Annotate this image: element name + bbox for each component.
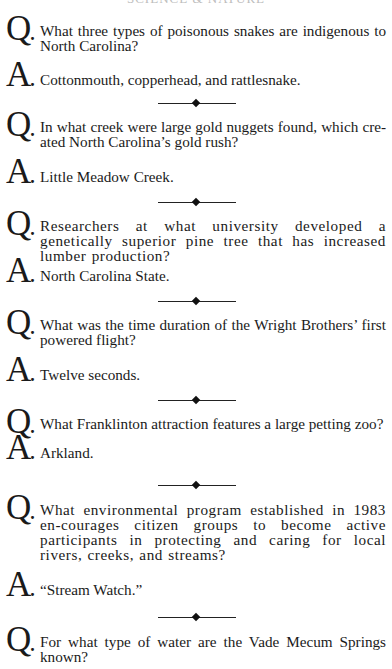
answer: A. “Stream Watch.”: [6, 576, 386, 597]
page-header: SCIENCE & NATURE: [0, 0, 392, 3]
answer-marker: A.: [6, 157, 35, 192]
answer-text: Cottonmouth, copperhead, and rattlesnake…: [40, 66, 386, 87]
question-text: What Franklinton attraction features a l…: [40, 412, 386, 431]
question: Q. In what creek were large gold nuggets…: [6, 115, 386, 149]
question-marker: Q.: [6, 209, 35, 244]
question-text: What environmental program established i…: [40, 498, 386, 562]
question-text: What was the time duration of the Wright…: [40, 313, 386, 347]
qa-item: Q. In what creek were large gold nuggets…: [6, 115, 386, 149]
qa-item: Q. What was the time duration of the Wri…: [6, 313, 386, 347]
answer-text: North Carolina State.: [40, 262, 386, 283]
book-page: SCIENCE & NATURE Q. What three types of …: [0, 0, 392, 669]
answer-text: “Stream Watch.”: [40, 576, 386, 597]
question-text: In what creek were large gold nuggets fo…: [40, 115, 386, 149]
answer-text: Little Meadow Creek.: [40, 163, 386, 184]
diamond-ornament-icon: [192, 481, 200, 489]
answer: A. Twelve seconds.: [6, 361, 386, 382]
question-marker: Q.: [6, 110, 35, 145]
question-text: What three types of poisonous snakes are…: [40, 19, 386, 53]
question-text: Researchers at what university developed…: [40, 214, 386, 263]
qa-item: A. Little Meadow Creek.: [6, 163, 386, 184]
answer-marker: A.: [6, 60, 35, 95]
answer-marker: A.: [6, 433, 35, 468]
section-divider: [158, 481, 236, 489]
qa-item: Q. Researchers at what university develo…: [6, 214, 386, 263]
question: Q. Researchers at what university develo…: [6, 214, 386, 263]
question-marker: Q.: [6, 493, 35, 528]
diamond-ornament-icon: [192, 198, 200, 206]
question-marker: Q.: [6, 625, 35, 660]
section-divider: [158, 297, 236, 305]
question: Q. What Franklinton attraction features …: [6, 412, 386, 431]
section-divider: [158, 198, 236, 206]
diamond-ornament-icon: [192, 396, 200, 404]
question-text: For what type of water are the Vade Mecu…: [40, 630, 386, 664]
diamond-ornament-icon: [192, 613, 200, 621]
question: Q. What environmental program establishe…: [6, 498, 386, 562]
answer: A. North Carolina State.: [6, 262, 386, 283]
qa-item: A. Twelve seconds.: [6, 361, 386, 382]
diamond-ornament-icon: [192, 99, 200, 107]
qa-item: Q. For what type of water are the Vade M…: [6, 630, 386, 664]
question: Q. What was the time duration of the Wri…: [6, 313, 386, 347]
answer-text: Twelve seconds.: [40, 361, 386, 382]
answer: A. Arkland.: [6, 439, 386, 460]
qa-item: A. “Stream Watch.”: [6, 576, 386, 597]
qa-item: A. Arkland.: [6, 439, 386, 460]
answer-marker: A.: [6, 570, 35, 605]
section-divider: [158, 613, 236, 621]
answer: A. Little Meadow Creek.: [6, 163, 386, 184]
qa-item: Q. What three types of poisonous snakes …: [6, 19, 386, 53]
answer: A. Cottonmouth, copperhead, and rattlesn…: [6, 66, 386, 87]
qa-item: Q. What environmental program establishe…: [6, 498, 386, 562]
section-divider: [158, 396, 236, 404]
qa-item: A. North Carolina State.: [6, 262, 386, 283]
qa-item: A. Cottonmouth, copperhead, and rattlesn…: [6, 66, 386, 87]
answer-marker: A.: [6, 256, 35, 291]
question-marker: Q.: [6, 14, 35, 49]
question: Q. What three types of poisonous snakes …: [6, 19, 386, 53]
diamond-ornament-icon: [192, 297, 200, 305]
question: Q. For what type of water are the Vade M…: [6, 630, 386, 664]
qa-item: Q. What Franklinton attraction features …: [6, 412, 386, 431]
answer-marker: A.: [6, 355, 35, 390]
section-divider: [158, 99, 236, 107]
question-marker: Q.: [6, 308, 35, 343]
answer-text: Arkland.: [40, 439, 386, 460]
